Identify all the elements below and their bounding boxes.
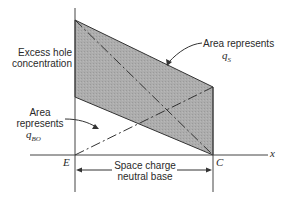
base-label-line1: Space charge xyxy=(112,160,178,171)
point-c-label: C xyxy=(216,157,223,168)
x-axis-label: x xyxy=(270,148,275,159)
base-region-label: Space charge neutral base xyxy=(112,160,178,182)
leader-arrow-qs xyxy=(169,43,202,62)
base-label-line2: neutral base xyxy=(112,171,178,182)
arrowhead-e xyxy=(76,168,82,173)
area-qbo-label-line1: Area xyxy=(14,107,66,118)
qbo-sub: BO xyxy=(32,135,41,143)
area-qs-label-line1: Area represents xyxy=(203,38,274,49)
y-axis-label-line1: Excess hole xyxy=(8,47,72,58)
leader-arrow-qbo xyxy=(65,119,96,127)
y-axis-label-line2: concentration xyxy=(8,58,72,69)
area-qbo-label-line2: represents xyxy=(14,118,66,129)
y-axis-label: Excess hole concentration xyxy=(8,47,72,69)
point-e-label: E xyxy=(63,157,70,168)
area-qbo-symbol: qBO xyxy=(26,129,41,145)
diagram-canvas: Excess hole concentration Area represent… xyxy=(0,0,285,201)
qs-sub: S xyxy=(228,56,232,64)
area-qs-symbol: qS xyxy=(222,50,231,66)
area-qs-label: Area represents xyxy=(203,38,274,49)
area-qbo-label: Area represents xyxy=(14,107,66,129)
arrowhead-c xyxy=(206,168,212,173)
